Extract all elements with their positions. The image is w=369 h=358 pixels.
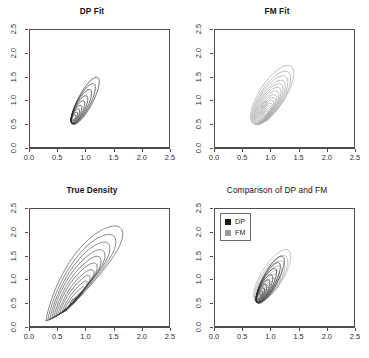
x-tick-mark: [270, 149, 271, 152]
x-tick-label: 0.5: [52, 153, 62, 162]
x-tick-mark: [29, 149, 30, 152]
y-tick-mark: [25, 100, 28, 101]
y-tick-label: 2.5: [194, 203, 203, 213]
y-tick-mark: [25, 327, 28, 328]
x-tick-label: 0.5: [237, 332, 247, 341]
x-tick-mark: [114, 328, 115, 331]
panel-fm-fit: FM Fit: [185, 0, 369, 179]
y-tick-mark: [25, 279, 28, 280]
y-tick-label: 1.0: [9, 274, 18, 284]
y-axis-line: [214, 29, 215, 148]
x-axis-line: [214, 148, 355, 149]
x-tick-mark: [57, 149, 58, 152]
x-tick-mark: [214, 328, 215, 331]
y-tick-mark: [25, 124, 28, 125]
y-tick-label: 0.0: [9, 322, 18, 332]
x-tick-mark: [299, 149, 300, 152]
panel-title-fm: FM Fit: [185, 6, 369, 16]
legend-label-dp: DP: [235, 217, 245, 226]
y-tick-label: 2.0: [9, 227, 18, 237]
x-tick-label: 2.0: [137, 332, 147, 341]
x-tick-mark: [29, 328, 30, 331]
y-tick-mark: [25, 208, 28, 209]
panel-comparison: Comparison of DP and FM: [185, 179, 369, 358]
x-tick-label: 1.0: [80, 332, 90, 341]
x-tick-label: 0.0: [24, 153, 34, 162]
x-tick-label: 0.0: [24, 332, 34, 341]
y-axis-line: [29, 29, 30, 148]
y-tick-label: 1.5: [9, 71, 18, 81]
legend-item-fm: FM: [225, 228, 245, 237]
x-tick-label: 1.0: [265, 332, 275, 341]
x-tick-mark: [327, 149, 328, 152]
y-tick-label: 0.0: [194, 143, 203, 153]
panel-title-true: True Density: [0, 185, 184, 195]
x-tick-label: 1.0: [80, 153, 90, 162]
x-tick-mark: [355, 149, 356, 152]
y-tick-label: 1.0: [194, 95, 203, 105]
x-tick-mark: [355, 328, 356, 331]
y-tick-label: 1.5: [9, 250, 18, 260]
x-tick-mark: [242, 149, 243, 152]
y-tick-label: 2.0: [194, 227, 203, 237]
panel-true-density: True Density 0.00.51.01.: [0, 179, 184, 358]
contour-plot-fm: [215, 30, 354, 147]
y-tick-mark: [210, 77, 213, 78]
legend-item-dp: DP: [225, 217, 245, 226]
panel-dp-fit: DP Fit 0.00.51.01.52.02.50.00.51.01.52.0…: [0, 0, 184, 179]
y-tick-mark: [210, 256, 213, 257]
plot-area-fm: [214, 29, 355, 148]
y-tick-label: 0.0: [9, 143, 18, 153]
y-axis-line: [29, 208, 30, 327]
x-tick-mark: [85, 328, 86, 331]
x-tick-mark: [57, 328, 58, 331]
x-tick-mark: [327, 328, 328, 331]
x-tick-mark: [270, 328, 271, 331]
x-tick-mark: [114, 149, 115, 152]
y-tick-mark: [25, 256, 28, 257]
legend: DP FM: [220, 213, 251, 241]
y-tick-mark: [210, 124, 213, 125]
x-tick-label: 1.5: [293, 153, 303, 162]
y-tick-label: 2.0: [194, 48, 203, 58]
figure-caption: [0, 350, 369, 358]
y-tick-mark: [210, 327, 213, 328]
y-tick-label: 2.0: [9, 48, 18, 58]
x-tick-label: 2.5: [350, 332, 360, 341]
x-tick-label: 2.5: [350, 153, 360, 162]
panel-title-dp: DP Fit: [0, 6, 184, 16]
x-tick-label: 2.0: [137, 153, 147, 162]
y-tick-mark: [210, 208, 213, 209]
y-tick-mark: [25, 148, 28, 149]
x-tick-label: 1.5: [108, 332, 118, 341]
y-tick-label: 2.5: [194, 24, 203, 34]
y-axis-line: [214, 208, 215, 327]
y-tick-label: 1.0: [194, 274, 203, 284]
y-tick-label: 2.5: [9, 24, 18, 34]
x-tick-label: 2.5: [165, 332, 175, 341]
plot-area-true: [29, 208, 170, 327]
legend-swatch-fm-icon: [225, 230, 231, 236]
y-tick-label: 0.5: [9, 119, 18, 129]
x-axis-line: [29, 148, 170, 149]
contour-plot-true: [30, 209, 169, 326]
x-tick-mark: [170, 328, 171, 331]
x-tick-mark: [214, 149, 215, 152]
x-tick-label: 0.0: [209, 153, 219, 162]
figure-contour-grid: DP Fit 0.00.51.01.52.02.50.00.51.01.52.0…: [0, 0, 369, 358]
x-tick-label: 2.0: [322, 153, 332, 162]
y-tick-label: 1.5: [194, 250, 203, 260]
x-tick-mark: [170, 149, 171, 152]
x-axis-line: [214, 327, 355, 328]
y-tick-mark: [25, 232, 28, 233]
y-tick-mark: [210, 232, 213, 233]
y-tick-label: 0.0: [194, 322, 203, 332]
plot-area-comparison: DP FM: [214, 208, 355, 327]
x-tick-mark: [242, 328, 243, 331]
y-tick-mark: [210, 29, 213, 30]
y-tick-label: 2.5: [9, 203, 18, 213]
y-tick-mark: [25, 77, 28, 78]
plot-area-dp: [29, 29, 170, 148]
y-tick-label: 1.5: [194, 71, 203, 81]
y-tick-mark: [210, 100, 213, 101]
